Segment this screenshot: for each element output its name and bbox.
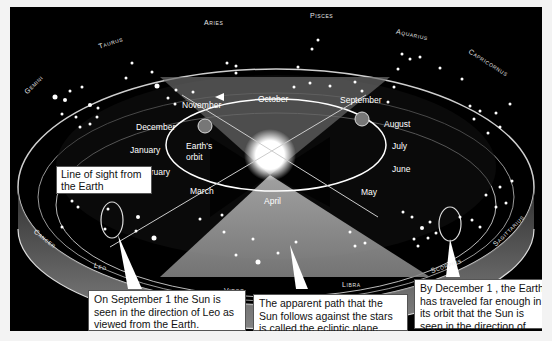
sun — [244, 129, 296, 181]
zodiac-libra: Libra — [342, 281, 361, 288]
month-october: October — [258, 94, 288, 104]
callout-leo: On September 1 the Sun is seen in the di… — [88, 290, 246, 331]
ecliptic-diagram: Aries Pisces Aquarius Capricornus Sagitt… — [10, 7, 542, 331]
zodiac-pisces: Pisces — [310, 12, 333, 19]
earth-november — [198, 119, 212, 133]
month-may: May — [361, 187, 377, 197]
line-of-sight-label: Line of sight from the Earth — [56, 166, 152, 194]
month-april: April — [264, 196, 281, 206]
zodiac-aries: Aries — [204, 19, 223, 26]
callout-scorpius: By December 1 , the Earth has traveled f… — [414, 279, 542, 329]
month-july: July — [392, 141, 407, 151]
month-november: November — [182, 100, 221, 110]
month-september: September — [340, 95, 382, 105]
month-august: August — [384, 119, 410, 129]
month-december: December — [136, 122, 175, 132]
callout-ecliptic-plane: The apparent path that the Sun follows a… — [253, 294, 408, 331]
month-june: June — [392, 164, 410, 174]
earth-orbit-label: Earth's orbit — [186, 141, 220, 163]
earth-september — [355, 112, 369, 126]
month-march: March — [190, 186, 214, 196]
month-january: January — [130, 145, 160, 155]
